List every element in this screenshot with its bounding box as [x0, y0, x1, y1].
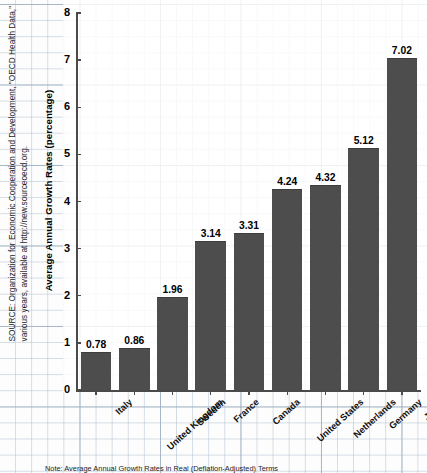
- source-note: SOURCE: Organization for Economic Cooper…: [7, 2, 30, 342]
- y-axis-tick-label: 0: [46, 383, 70, 395]
- y-axis-tick-label: 4: [46, 195, 70, 207]
- x-axis-tick: [363, 390, 364, 395]
- y-axis-tick-label: 8: [46, 6, 70, 18]
- bar-chart: SOURCE: Organization for Economic Cooper…: [0, 0, 427, 473]
- x-axis-category-label: Italy: [114, 397, 134, 417]
- y-axis-tick-label: 6: [46, 100, 70, 112]
- x-axis-tick: [134, 390, 135, 395]
- x-axis-tick: [287, 390, 288, 395]
- y-axis-tick-label: 2: [46, 289, 70, 301]
- y-axis-tick: [76, 201, 81, 202]
- x-axis-category-label: Japan: [422, 397, 427, 422]
- x-axis-category-label: France: [232, 397, 261, 425]
- bar: [234, 233, 265, 390]
- bar: [348, 148, 379, 390]
- x-axis-category-label: Canada: [271, 397, 302, 427]
- y-axis-tick-label: 1: [46, 336, 70, 348]
- x-axis-tick: [95, 390, 96, 395]
- bar: [81, 352, 112, 390]
- y-axis-tick-label: 7: [46, 53, 70, 65]
- figure-note: Note: Average Annual Growth Rates in Rea…: [45, 464, 278, 473]
- bar-value-label: 0.86: [110, 335, 158, 346]
- bar-value-label: 1.96: [149, 284, 197, 295]
- bar-value-label: 7.02: [378, 45, 426, 56]
- x-axis-tick: [325, 390, 326, 395]
- x-axis-tick: [248, 390, 249, 395]
- y-axis-tick: [76, 12, 81, 13]
- bar: [310, 185, 341, 390]
- bar: [387, 58, 418, 390]
- y-axis-tick: [76, 154, 81, 155]
- x-axis-tick: [401, 390, 402, 395]
- bar: [195, 241, 226, 390]
- bar: [272, 189, 303, 390]
- y-axis-tick: [76, 107, 81, 108]
- y-axis-tick: [76, 295, 81, 296]
- y-axis-tick: [76, 59, 81, 60]
- bar-value-label: 5.12: [340, 135, 388, 146]
- y-axis-tick-label: 5: [46, 147, 70, 159]
- y-axis-tick-label: 3: [46, 242, 70, 254]
- x-axis-tick: [172, 390, 173, 395]
- bar: [157, 297, 188, 390]
- bar-value-label: 3.31: [225, 220, 273, 231]
- y-axis-tick: [76, 248, 81, 249]
- bar: [119, 348, 150, 390]
- x-axis-tick: [210, 390, 211, 395]
- bar-value-label: 4.32: [301, 172, 349, 183]
